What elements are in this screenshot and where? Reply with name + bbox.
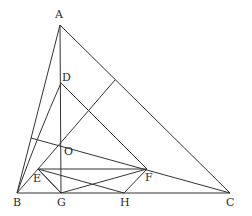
label-d: D — [62, 72, 71, 83]
label-b: B — [13, 197, 21, 208]
side-ac — [60, 25, 230, 193]
label-a: A — [55, 9, 63, 20]
geometry-diagram: A D O E F B G H C — [0, 0, 252, 216]
label-c: C — [226, 197, 234, 208]
line-e-ac — [38, 80, 115, 169]
label-f: F — [145, 172, 153, 183]
line-eh — [38, 169, 124, 193]
label-o: O — [64, 146, 73, 157]
label-h: H — [120, 197, 130, 208]
label-g: G — [57, 197, 66, 208]
label-e: E — [33, 173, 41, 184]
line-gf — [61, 169, 147, 193]
line-ag — [60, 25, 61, 193]
line-df — [61, 83, 147, 169]
